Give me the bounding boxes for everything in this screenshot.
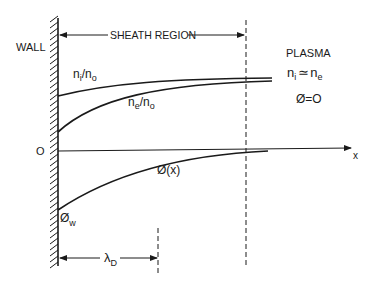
wall-potential-label: Øw (60, 211, 76, 228)
sheath-region-label: SHEATH REGION (110, 29, 196, 41)
plasma-title: PLASMA (286, 47, 331, 59)
plasma-annotation: PLASMA ni≃ne Ø=O (286, 47, 331, 106)
x-axis-label: x (353, 150, 358, 161)
wall-label: WALL (16, 41, 46, 53)
ion-density-label: ni/no (73, 67, 97, 83)
origin-label: O (36, 145, 45, 157)
electron-density-label: ne/no (128, 95, 155, 111)
potential-label: Ø(x) (157, 163, 180, 177)
wall-hatching (50, 16, 58, 268)
x-axis (58, 148, 351, 151)
wall (50, 16, 58, 268)
plasma-potential: Ø=O (296, 92, 322, 106)
sheath-diagram: WALL SHEATH REGION PLASMA ni≃ne Ø=O ni/n… (0, 0, 378, 290)
debye-length-dimension: λD (60, 228, 158, 276)
potential-curve (58, 151, 268, 210)
debye-length-label: λD (104, 250, 118, 268)
sheath-region-dimension: SHEATH REGION (60, 29, 244, 41)
quasi-neutrality-relation: ni≃ne (287, 65, 322, 82)
